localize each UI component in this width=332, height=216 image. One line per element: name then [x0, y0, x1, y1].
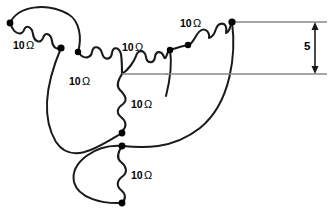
resistor-label-r5: 10Ω — [131, 99, 152, 110]
wire-arc-left-large — [47, 48, 122, 153]
resistor-r5-coil — [118, 74, 126, 133]
node-upper-left — [57, 44, 64, 51]
resistor-label-r2: 10Ω — [122, 42, 143, 53]
resistor-label-r6: 10Ω — [131, 170, 152, 181]
dimension-arrow-head-down — [312, 66, 319, 74]
resistor-label-r4: 10Ω — [180, 18, 201, 29]
node-mid-upper — [119, 130, 126, 137]
resistor-r2-coil — [79, 47, 122, 74]
dimension-arrow-head-up — [312, 22, 319, 30]
dimension-group — [122, 22, 327, 74]
resistor-label-r1: 10Ω — [13, 40, 34, 51]
node-right-inner — [167, 47, 173, 53]
node-bottom — [119, 200, 126, 207]
dimension-value-label: 5 — [304, 41, 310, 53]
resistor-label-r3: 10Ω — [69, 76, 90, 87]
resistor-r6-coil — [118, 146, 126, 203]
circuit-diagram-canvas: 10Ω 10Ω 10Ω 10Ω 10Ω 10Ω 5 — [0, 0, 332, 216]
circuit-schematic — [0, 0, 332, 216]
wire-arc-bottom-left — [74, 146, 122, 203]
resistor-r3-coil — [122, 50, 170, 74]
node-top-right — [228, 18, 235, 25]
node-right-mid — [185, 42, 191, 48]
node-left-end — [7, 20, 14, 27]
node-mid-lower — [119, 143, 126, 150]
node-center-upper — [75, 49, 81, 55]
